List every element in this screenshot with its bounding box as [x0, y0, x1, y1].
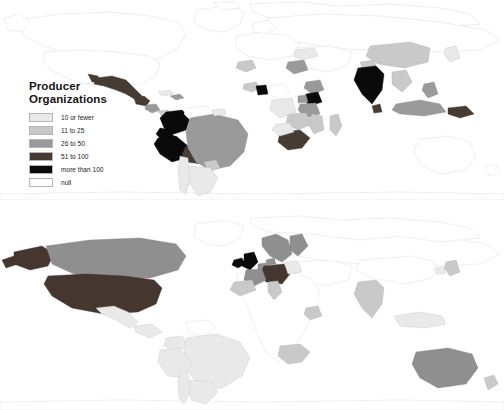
legend-label: more than 100 — [61, 166, 104, 174]
legend-row: 10 or fewer — [29, 112, 107, 123]
legend-row: null — [29, 177, 107, 188]
legend-swatch-icon — [29, 178, 53, 187]
sales-choropleth: .s0{fill:#e9e9e9;stroke:#c8c8c8;stroke-w… — [0, 212, 504, 410]
legend-producer-organizations: Producer Organizations 10 or fewer 11 to… — [29, 80, 107, 190]
legend-label: null — [61, 179, 71, 187]
legend-row: more than 100 — [29, 164, 107, 175]
legend-swatch-icon — [29, 113, 53, 122]
legend-items-producer: 10 or fewer 11 to 25 26 to 50 51 to 100 — [29, 112, 107, 188]
world-map-figure: .c0{fill:#e9e9e9;stroke:#c2c2c2;stroke-w… — [0, 0, 504, 410]
legend-swatch-icon — [29, 126, 53, 135]
legend-swatch-icon — [29, 165, 53, 174]
legend-label: 10 or fewer — [61, 114, 94, 122]
map-panel-producer-organizations: .c0{fill:#e9e9e9;stroke:#c2c2c2;stroke-w… — [0, 0, 504, 200]
legend-label: 26 to 50 — [61, 140, 85, 148]
legend-row: 26 to 50 — [29, 138, 107, 149]
legend-title-producer: Producer Organizations — [29, 80, 107, 106]
legend-swatch-icon — [29, 139, 53, 148]
legend-row: 11 to 25 — [29, 125, 107, 136]
legend-swatch-icon — [29, 152, 53, 161]
legend-label: 51 to 100 — [61, 153, 89, 161]
map-panel-sales: .s0{fill:#e9e9e9;stroke:#c8c8c8;stroke-w… — [0, 212, 504, 410]
legend-row: 51 to 100 — [29, 151, 107, 162]
legend-label: 11 to 25 — [61, 127, 84, 135]
